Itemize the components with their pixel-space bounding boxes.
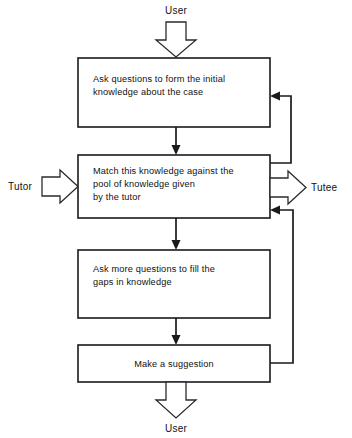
box-fill-gaps-line-2: gaps in knowledge (93, 277, 172, 287)
feedback-loop-box4-to-box2-arrowhead (270, 206, 280, 215)
feedback-loop-box2-to-box1-arrowhead (270, 92, 280, 101)
box-initial-questions-line-1: Ask questions to form the initial (93, 74, 225, 84)
box-match-knowledge-line-2: pool of knowledge given (93, 179, 195, 189)
box-match-knowledge-line-1: Match this knowledge against the (93, 166, 234, 176)
box-match-knowledge-line-3: by the tutor (93, 192, 141, 202)
connector-box3-to-box4-arrowhead (172, 335, 181, 345)
feedback-loop-box4-to-box2 (270, 210, 293, 363)
tutee-output-arrow (270, 171, 306, 204)
box-initial-questions-line-2: knowledge about the case (93, 87, 203, 97)
box-make-suggestion-line-1: Make a suggestion (134, 359, 214, 369)
feedback-loop-box2-to-box1 (270, 96, 291, 163)
tutee-label: Tutee (311, 182, 337, 193)
connector-box1-to-box2-arrowhead (172, 145, 181, 155)
box-fill-gaps-line-1: Ask more questions to fill the (93, 264, 215, 274)
connector-box2-to-box3-arrowhead (172, 240, 181, 250)
flowchart-canvas: User Ask questions to form the initial k… (0, 0, 352, 438)
tutor-label: Tutor (8, 181, 32, 192)
bottom-user-output-arrow (156, 382, 196, 418)
tutor-input-arrow (42, 170, 78, 203)
top-user-input-arrow (156, 22, 196, 57)
top-user-label: User (165, 5, 187, 16)
bottom-user-label: User (165, 423, 187, 434)
